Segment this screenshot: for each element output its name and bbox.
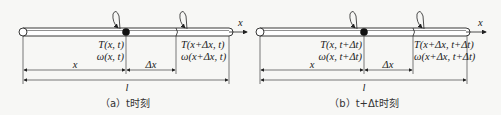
torque-label-right: T(x+Δx, t+Δt) <box>414 39 474 51</box>
torque-label-left: T(x, t) <box>98 39 124 51</box>
shaft-torsion-diagram: x T(x, t) ω(x, t) T(x+Δx, t) ω(x+Δx, t) … <box>0 0 501 115</box>
panel-b: x T(x, t+Δt) ω(x, t+Δt) T(x+Δx, t+Δt) ω(… <box>256 11 486 109</box>
shaft-end-circle <box>256 28 264 36</box>
x-axis-label: x <box>237 17 243 28</box>
dim-dx-label: Δx <box>145 59 157 70</box>
angle-label-right: ω(x+Δx, t) <box>181 51 227 63</box>
x-axis-label: x <box>477 17 483 28</box>
torque-label-right: T(x+Δx, t) <box>181 39 225 51</box>
torque-label-left: T(x, t+Δt) <box>320 39 362 51</box>
angle-label-left: ω(x, t) <box>97 51 125 63</box>
caption-a: （a）t时刻 <box>100 97 150 109</box>
dim-l-label: l <box>363 82 366 93</box>
dim-dx-label: Δx <box>382 59 394 70</box>
dim-x-label: x <box>72 59 78 70</box>
caption-b: （b）t+Δt时刻 <box>329 97 398 109</box>
shaft-end-circle <box>19 28 27 36</box>
section-point <box>360 28 368 36</box>
dim-x-label: x <box>309 59 315 70</box>
section-point <box>122 28 130 36</box>
torque-arrow-right-icon <box>417 11 424 29</box>
angle-label-right: ω(x+Δx, t+Δt) <box>414 51 476 63</box>
dim-l-label: l <box>126 82 129 93</box>
torque-arrow-left-icon <box>113 11 120 29</box>
angle-label-left: ω(x, t+Δt) <box>319 51 363 63</box>
torque-arrow-right-icon <box>180 11 187 29</box>
panel-a: x T(x, t) ω(x, t) T(x+Δx, t) ω(x+Δx, t) … <box>19 11 247 109</box>
torque-arrow-left-icon <box>350 11 357 29</box>
